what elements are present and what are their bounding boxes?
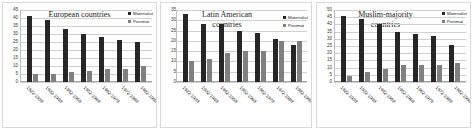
bar-postmaterialist [419,65,424,82]
bar-materialist [237,31,242,82]
bar-postmaterialist [51,74,56,82]
bar-materialist [449,45,454,82]
bar-materialist [135,42,140,82]
bar-materialist [63,29,68,82]
bar-postmaterialist [141,66,146,82]
y-axis-tick-label: 15 [327,58,332,63]
y-axis-tick-label: 5 [329,73,332,78]
x-axis-tick-label: 1932-1948 [45,85,64,104]
y-axis-tick-label: 0 [329,80,332,85]
bar-postmaterialist [455,63,460,82]
bar-materialist [273,39,278,82]
x-axis-tick-label: 1952-1968 [396,85,415,104]
bar-postmaterialist [87,71,92,82]
bar-materialist [413,34,418,82]
bar-postmaterialist [225,53,230,82]
x-axis-tick-label: 1952-1968 [82,85,101,104]
x-axis-tick-label: 1942-1958 [378,85,397,104]
bar-group [99,10,110,82]
bar-postmaterialist [365,72,370,82]
x-axis-tick-label: 1932-1948 [359,85,378,104]
bar-group [201,10,212,82]
bar-materialist [377,24,382,82]
bar-materialist [45,20,50,82]
y-axis-tick-label: 40 [13,16,18,21]
bar-postmaterialist [261,51,266,82]
x-axis-tick-label: 1982-1998 [139,85,157,104]
bar-group [413,10,424,82]
bar-group [219,10,230,82]
bar-postmaterialist [401,65,406,82]
plot-area [176,10,307,82]
bar-group [341,10,352,82]
x-axis-tick-label: 1972-1988 [120,85,139,104]
x-axis-tick-label: 1932-1948 [201,85,220,104]
bar-materialist [291,45,296,82]
x-axis-tick-label: 1952-1968 [238,85,257,104]
bar-postmaterialist [347,76,352,82]
bar-materialist [117,40,122,82]
y-axis-tick-label: 35 [13,24,18,29]
x-axis-tick-label: 1922-1938 [182,85,201,104]
y-axis-tick-label: 30 [13,32,18,37]
plot-area [20,10,152,82]
y-axis-tick-label: 45 [327,15,332,20]
bar-postmaterialist [69,72,74,82]
y-axis-tick-label: 40 [327,22,332,27]
bar-group [273,10,284,82]
bar-postmaterialist [243,51,248,82]
chart-sheet: European countries Materialist Postmat 0… [0,0,473,132]
bar-group [183,10,194,82]
bar-group [237,10,248,82]
bar-groups [176,10,307,82]
bar-group [81,10,92,82]
bar-materialist [27,16,32,82]
bar-materialist [201,24,206,82]
bar-group [431,10,442,82]
bar-postmaterialist [189,61,194,82]
y-axis-ticks: 051015202530354045 [3,10,19,82]
x-axis-tick-label: 1982-1998 [294,85,312,104]
bar-group [449,10,460,82]
x-axis-ticks: 1922-19381932-19481942-19581952-19681962… [176,83,307,127]
bar-groups [334,10,466,82]
bar-materialist [395,32,400,82]
bar-group [117,10,128,82]
bar-group [359,10,370,82]
bar-materialist [341,16,346,82]
x-axis-tick-label: 1962-1978 [415,85,434,104]
bar-group [45,10,56,82]
bar-group [63,10,74,82]
bar-materialist [255,33,260,82]
bar-postmaterialist [279,41,284,82]
x-axis-tick-label: 1982-1998 [453,85,471,104]
x-axis-tick-label: 1962-1978 [101,85,120,104]
bar-postmaterialist [437,65,442,82]
x-axis-tick-label: 1942-1958 [219,85,238,104]
bar-postmaterialist [123,69,128,82]
y-axis-tick-label: 25 [327,44,332,49]
x-axis-tick-label: 1942-1958 [64,85,83,104]
plot-area [334,10,466,82]
x-axis-ticks: 1922-19381932-19481942-19581952-19681962… [20,83,152,127]
bar-postmaterialist [105,69,110,82]
y-axis-tick-label: 0 [15,80,18,85]
y-axis-tick-label: 50 [327,8,332,13]
bar-materialist [183,14,188,82]
bar-group [377,10,388,82]
bar-materialist [431,36,436,82]
bar-group [27,10,38,82]
chart-panel-muslim-majority: Muslim-majority countries Materialist Po… [316,2,471,128]
bar-group [395,10,406,82]
x-axis-tick-label: 1962-1978 [257,85,276,104]
bar-postmaterialist [297,41,302,82]
x-axis-tick-label: 1922-1938 [340,85,359,104]
bar-group [291,10,302,82]
y-axis-tick-label: 45 [13,8,18,13]
y-axis-ticks: 05101520253035404550 [317,10,333,82]
bar-group [255,10,266,82]
bar-postmaterialist [207,59,212,82]
chart-panel-european: European countries Materialist Postmat 0… [2,2,157,128]
x-axis-tick-label: 1922-1938 [26,85,45,104]
y-axis-tick-label: 10 [13,64,18,69]
